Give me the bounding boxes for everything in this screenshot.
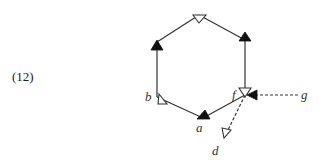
- edge-f-a: [203, 95, 245, 118]
- quiver-diagram: f g a b d: [0, 0, 322, 162]
- edge-upperleft-top: [157, 15, 199, 42]
- filled-arrowhead-icon: [197, 110, 210, 119]
- edge-top-upperright: [199, 15, 245, 40]
- open-arrowhead-icon: [222, 128, 231, 138]
- label-d: d: [212, 143, 219, 158]
- filled-arrowhead-icon: [239, 32, 251, 41]
- label-b: b: [145, 89, 152, 104]
- label-g: g: [301, 87, 308, 102]
- open-arrowhead-icon: [158, 94, 167, 104]
- filled-arrowhead-icon: [151, 40, 163, 50]
- open-arrowhead-icon: [193, 15, 206, 23]
- label-a: a: [196, 120, 203, 135]
